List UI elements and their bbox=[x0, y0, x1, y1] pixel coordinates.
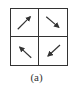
cell-top-right bbox=[39, 9, 67, 37]
figure-caption: (a) bbox=[0, 71, 73, 83]
cell-bottom-left bbox=[11, 37, 39, 65]
cell-top-left bbox=[11, 9, 39, 37]
arrow-up-right-icon bbox=[11, 9, 38, 36]
cell-bottom-right bbox=[39, 37, 67, 65]
arrow-down-right-icon bbox=[39, 9, 67, 36]
arrow-up-left-icon bbox=[11, 37, 38, 65]
arrow-down-left-icon bbox=[39, 37, 67, 65]
arrow-grid bbox=[10, 8, 68, 66]
